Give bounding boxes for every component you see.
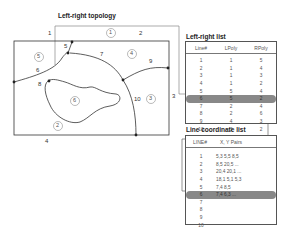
col-header-rpoly: RPoly (246, 45, 276, 51)
col-header-line: Line# (186, 45, 216, 51)
line-label-4: 4 (45, 138, 48, 144)
line-coordinate-list-title: Line coordinate list (186, 126, 246, 133)
line-label-5: 5 (64, 43, 67, 49)
line-label-9: 9 (149, 58, 152, 64)
table-row: 418,1 5,1 5,3 (186, 176, 276, 184)
polygon-label-1: 1 (109, 29, 112, 35)
polygon-label-6: 6 (73, 97, 76, 103)
line-coordinate-list-table: LINE# X, Y Pairs 15,3 5,5 8,5 28,5 20,5 … (185, 135, 277, 225)
table-header: Line# LPoly RPoly (186, 42, 276, 54)
table-row: 28,5 20,5 ... (186, 161, 276, 169)
table-row: 8 (186, 206, 276, 214)
table-row-highlighted: 652 (186, 95, 276, 103)
line-label-7: 7 (100, 51, 103, 57)
col-header-xy-pairs: X, Y Pairs (214, 139, 276, 145)
line-6 (14, 53, 68, 82)
line-label-3: 3 (172, 93, 175, 99)
topology-title: Left-right topology (58, 12, 116, 19)
table-row: 724 (186, 103, 276, 111)
line-8-island (45, 79, 120, 122)
line-9 (123, 68, 168, 81)
table-row: 313 (186, 72, 276, 80)
table-header: LINE# X, Y Pairs (186, 136, 276, 148)
col-header-line: LINE# (186, 139, 214, 145)
table-row: 57,4 8,5 (186, 183, 276, 191)
table-row: 214 (186, 65, 276, 73)
left-right-list-table: Line# LPoly RPoly 115 214 313 412 554 65… (185, 41, 277, 124)
polygon-label-4: 4 (130, 50, 133, 56)
table-row: 320,4 20,1 ... (186, 168, 276, 176)
line-label-2: 2 (139, 30, 142, 36)
line-7 (70, 53, 123, 80)
line-5 (68, 42, 72, 53)
line-label-10: 10 (134, 96, 141, 102)
polygon-label-5: 5 (37, 53, 40, 59)
table-row: 412 (186, 80, 276, 88)
col-header-lpoly: LPoly (216, 45, 246, 51)
line-10 (123, 80, 136, 135)
polygon-label-2: 2 (56, 122, 59, 128)
table-row: 15,3 5,5 8,5 (186, 153, 276, 161)
table-row: 7 (186, 199, 276, 207)
line-label-1: 1 (48, 30, 51, 36)
table-row: 554 (186, 87, 276, 95)
table-row: 10 (186, 221, 276, 229)
table-row: 115 (186, 57, 276, 65)
left-right-list-title: Left-right list (186, 33, 226, 40)
polygon-label-3: 3 (149, 95, 152, 101)
line-label-6: 6 (36, 67, 39, 73)
table-row: 9 (186, 214, 276, 222)
table-row-highlighted: 67,4 6,3 ... (186, 191, 276, 199)
table-row: 826 (186, 110, 276, 118)
connector-line (55, 26, 188, 94)
line-label-8: 8 (38, 81, 41, 87)
table-row: 943 (186, 118, 276, 126)
